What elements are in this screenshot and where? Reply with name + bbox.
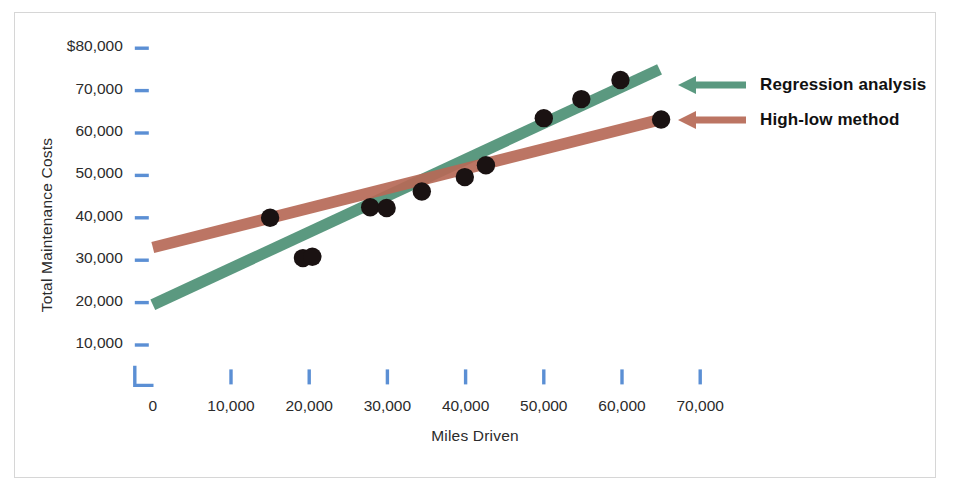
left-arrow-icon <box>676 74 748 96</box>
trend-line-high-low <box>153 119 661 247</box>
x-axis-title: Miles Driven <box>365 427 585 445</box>
y-tick-label: 40,000 <box>3 207 123 225</box>
x-tick-label: 70,000 <box>655 397 745 415</box>
x-tick-label: 60,000 <box>577 397 667 415</box>
x-tick-label: 30,000 <box>342 397 432 415</box>
data-point <box>535 109 553 127</box>
y-tick-label: 50,000 <box>3 164 123 182</box>
data-point <box>377 199 395 217</box>
y-tick-label: $80,000 <box>3 37 123 55</box>
legend-item-regression-analysis: Regression analysis <box>676 74 926 96</box>
data-point <box>361 198 379 216</box>
data-point <box>572 90 590 108</box>
legend-item-high-low-method: High-low method <box>676 109 899 131</box>
y-tick-label: 70,000 <box>3 80 123 98</box>
data-point <box>652 110 670 128</box>
data-point <box>456 168 474 186</box>
legend-label: High-low method <box>760 110 899 130</box>
data-point <box>261 209 279 227</box>
data-point <box>611 71 629 89</box>
data-point <box>413 182 431 200</box>
y-tick-label: 60,000 <box>3 122 123 140</box>
data-point <box>303 248 321 266</box>
y-tick-label: 20,000 <box>3 292 123 310</box>
x-tick-label: 0 <box>108 397 198 415</box>
y-tick-label: 30,000 <box>3 249 123 267</box>
x-tick-label: 50,000 <box>499 397 589 415</box>
axis-lines <box>135 48 700 385</box>
y-tick-label: 10,000 <box>3 334 123 352</box>
left-arrow-icon <box>676 109 748 131</box>
data-points <box>261 71 670 267</box>
x-tick-label: 10,000 <box>186 397 276 415</box>
legend-label: Regression analysis <box>760 75 926 95</box>
data-point <box>477 156 495 174</box>
x-tick-label: 20,000 <box>264 397 354 415</box>
x-tick-label: 40,000 <box>421 397 511 415</box>
y-axis-title: Total Maintenance Costs <box>38 120 56 330</box>
